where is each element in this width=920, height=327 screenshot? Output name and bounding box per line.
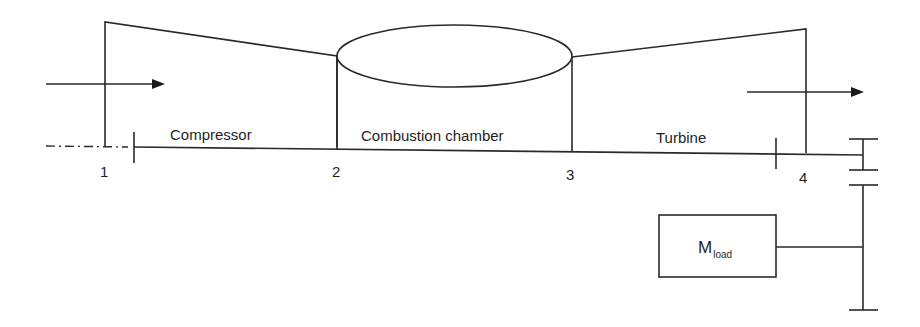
turbine-section: Turbine (572, 29, 806, 153)
gas-turbine-diagram: Compressor Combustion chamber Turbine Ml… (0, 0, 920, 327)
gear-train (849, 139, 878, 310)
station-3-label: 3 (566, 166, 574, 183)
load-box (659, 215, 776, 277)
combustion-chamber-ellipse (337, 25, 572, 87)
combustion-chamber-label: Combustion chamber (361, 127, 504, 144)
shaft-centerline-dashed (46, 146, 128, 147)
shaft-line (134, 147, 863, 155)
load-section: Mload (659, 215, 863, 277)
combustion-chamber-section: Combustion chamber (337, 25, 572, 151)
compressor-label: Compressor (170, 126, 252, 143)
turbine-label: Turbine (656, 129, 706, 146)
station-labels: 1 2 3 4 (100, 163, 807, 186)
load-label-main: M (698, 238, 712, 257)
station-4-label: 4 (799, 169, 807, 186)
station-1-label: 1 (100, 163, 108, 180)
station-2-label: 2 (332, 163, 340, 180)
load-label: Mload (698, 238, 732, 260)
inlet-arrowhead-icon (152, 79, 165, 89)
load-label-subscript: load (713, 249, 732, 260)
exhaust-arrowhead-icon (851, 87, 864, 97)
